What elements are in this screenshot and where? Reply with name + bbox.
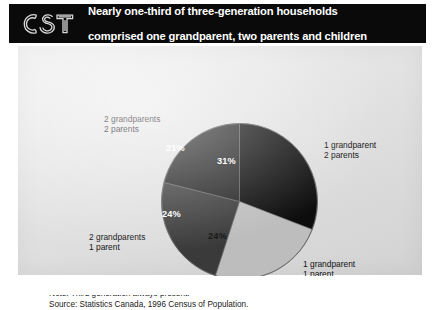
cst-outline-logo-icon [20,9,78,39]
pie-value-label-4: 21% [166,143,185,153]
headline-line-2: comprised one grandparent, two parents a… [88,30,367,43]
pie-category-label-1-grandparent-2-parents: 1 grandparent 2 parents [324,140,376,160]
pie-value-label-1: 31% [217,156,236,166]
label-line-1: 1 grandparent [303,259,355,269]
header-bar: Nearly one-third of three-generation hou… [9,4,426,43]
chart-panel: 31% 24% 24% 21% 2 grandparents 2 parents… [18,46,422,275]
pie-value-label-3: 24% [162,209,181,219]
headline-line-1: Nearly one-third of three-generation hou… [88,5,367,18]
pie-category-label-2-grandparents-2-parents: 2 grandparents 2 parents [104,114,160,134]
label-line-2: 2 parents [324,150,376,160]
label-line-1: 1 grandparent [324,140,376,150]
pie-value-label-2: 24% [208,231,227,241]
footnote-source: Source: Statistics Canada, 1996 Census o… [49,300,248,310]
label-line-2: 2 parents [104,124,160,134]
label-line-2: 1 parent [89,242,145,252]
pie-category-label-2-grandparents-1-parent: 2 grandparents 1 parent [89,232,145,252]
label-line-1: 2 grandparents [89,232,145,242]
label-line-1: 2 grandparents [104,114,160,124]
page-bottom-margin [0,276,437,295]
